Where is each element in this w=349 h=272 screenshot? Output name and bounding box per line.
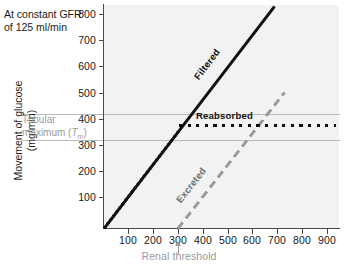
y-tick-300 <box>99 145 104 146</box>
renal-threshold-annotation: Renal threshold <box>139 246 219 264</box>
y-tick-100 <box>99 197 104 198</box>
x-tick-label-900: 900 <box>310 234 344 246</box>
y-tick-500 <box>99 93 104 94</box>
series-label-reabsorbed: Reabsorbed <box>196 110 253 121</box>
renal-threshold-label: Renal threshold <box>141 250 216 262</box>
tubular-maximum-line2: maximum ( <box>22 127 71 138</box>
y-tick-label-100: 100 <box>68 191 96 203</box>
y-tick-label-500: 500 <box>68 87 96 99</box>
y-tick-label-200: 200 <box>68 165 96 177</box>
tubular-maximum-line1: Tubular <box>22 114 56 125</box>
y-tick-200 <box>99 171 104 172</box>
y-tick-800 <box>99 14 104 15</box>
tubular-maximum-close: ) <box>83 127 86 138</box>
y-axis <box>103 4 104 229</box>
note-constant-gfr: At constant GFR of 125 ml/min <box>4 8 82 33</box>
y-tick-700 <box>99 40 104 41</box>
y-tick-label-700: 700 <box>68 34 96 46</box>
x-axis <box>103 228 340 229</box>
y-tick-600 <box>99 66 104 67</box>
series-line-reabsorbed-plateau <box>179 124 336 127</box>
tubular-maximum-note: Tubular maximum (Tm) <box>22 114 102 143</box>
y-tick-label-600: 600 <box>68 60 96 72</box>
glucose-titration-chart: 800 700 600 500 400 300 200 100 100 200 … <box>0 0 349 272</box>
